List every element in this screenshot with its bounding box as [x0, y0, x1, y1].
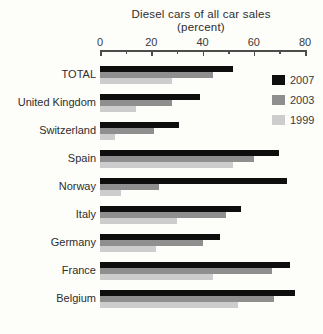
x-tick-minor-50 — [228, 51, 230, 54]
category-label-norway: Norway — [0, 180, 96, 192]
category-label-spain: Spain — [0, 152, 96, 164]
x-tick-minor-10 — [126, 51, 128, 54]
x-tick-label-20: 20 — [145, 36, 157, 48]
bar-spain-1999 — [100, 162, 233, 168]
category-label-switzerland: Switzerland — [0, 124, 96, 136]
bar-norway-1999 — [100, 190, 121, 196]
category-label-italy: Italy — [0, 208, 96, 220]
legend-swatch-2007 — [272, 75, 285, 85]
legend-label-2007: 2007 — [290, 74, 314, 86]
chart-title: Diesel cars of all car sales — [79, 8, 323, 21]
x-tick-minor-30 — [177, 51, 179, 54]
bar-united-kingdom-1999 — [100, 106, 136, 112]
x-tick-label-40: 40 — [196, 36, 208, 48]
bar-germany-1999 — [100, 246, 156, 252]
chart-container: Diesel cars of all car sales (percent) 0… — [0, 0, 323, 334]
category-label-germany: Germany — [0, 236, 96, 248]
bar-italy-1999 — [100, 218, 177, 224]
category-label-belgium: Belgium — [0, 292, 96, 304]
x-tick-major-20 — [151, 51, 153, 56]
bar-belgium-1999 — [100, 302, 238, 308]
legend-swatch-2003 — [272, 95, 285, 105]
bar-total-1999 — [100, 78, 172, 84]
legend-label-2003: 2003 — [290, 94, 314, 106]
legend-label-1999: 1999 — [290, 114, 314, 126]
x-tick-major-40 — [203, 51, 205, 56]
x-tick-label-0: 0 — [97, 36, 103, 48]
x-tick-major-80 — [305, 51, 307, 56]
x-tick-major-60 — [254, 51, 256, 56]
legend-swatch-1999 — [272, 115, 285, 125]
x-tick-label-80: 80 — [299, 36, 311, 48]
bar-switzerland-1999 — [100, 134, 115, 140]
category-label-france: France — [0, 264, 96, 276]
x-tick-minor-70 — [279, 51, 281, 54]
x-tick-label-60: 60 — [248, 36, 260, 48]
category-label-total: TOTAL — [0, 68, 96, 80]
bar-france-1999 — [100, 274, 213, 280]
category-label-united-kingdom: United Kingdom — [0, 96, 96, 108]
chart-subtitle: (percent) — [79, 21, 323, 34]
x-tick-major-0 — [100, 51, 102, 56]
